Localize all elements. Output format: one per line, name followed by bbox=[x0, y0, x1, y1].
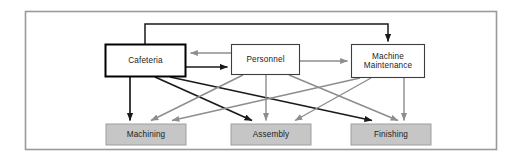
node-assembly[interactable] bbox=[231, 124, 311, 145]
node-machine-maintenance[interactable] bbox=[352, 45, 425, 78]
diagram-canvas: Cafeteria Personnel Machine Maintenance … bbox=[0, 0, 526, 163]
operating-department-layer bbox=[106, 124, 431, 145]
node-machining[interactable] bbox=[106, 124, 186, 145]
diagram-graphics bbox=[0, 0, 526, 163]
node-finishing[interactable] bbox=[351, 124, 431, 145]
node-personnel[interactable] bbox=[232, 45, 300, 75]
node-cafeteria[interactable] bbox=[106, 45, 186, 77]
service-department-layer bbox=[106, 45, 425, 78]
